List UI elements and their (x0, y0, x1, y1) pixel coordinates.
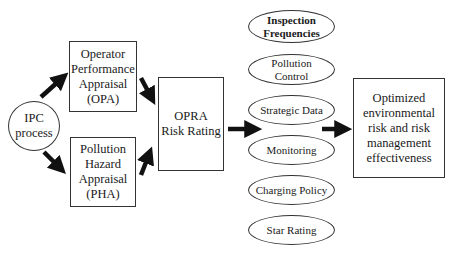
arrow-opa-to-opra (141, 78, 150, 95)
opra-label: OPRA Risk Rating (161, 109, 220, 139)
arrow-pha-to-opra (141, 157, 148, 175)
arrow-ipc-to-opa (41, 80, 60, 97)
optimized-result-label: Optimized environmental risk and risk ma… (363, 91, 435, 166)
arrow-ipc-to-pha (44, 152, 58, 166)
pha-label: Pollution Hazard Appraisal (PHA) (79, 142, 128, 202)
output-charging-policy: Charging Policy (248, 175, 335, 205)
pha-node: Pollution Hazard Appraisal (PHA) (70, 137, 136, 207)
optimized-result-node: Optimized environmental risk and risk ma… (353, 78, 445, 178)
opa-node: Operator Performance Appraisal (OPA) (69, 41, 137, 112)
output-monitoring: Monitoring (248, 135, 335, 165)
ipc-process-label: IPC process (15, 111, 53, 141)
opra-risk-rating-node: OPRA Risk Rating (158, 77, 224, 171)
output-star-rating: Star Rating (248, 215, 335, 245)
output-pollution-control: Pollution Control (248, 54, 335, 85)
ipc-process-node: IPC process (8, 101, 60, 151)
output-strategic-data: Strategic Data (248, 95, 335, 125)
opa-label: Operator Performance Appraisal (OPA) (71, 47, 135, 107)
output-inspection-frequencies: Inspection Frequencies (248, 10, 335, 43)
